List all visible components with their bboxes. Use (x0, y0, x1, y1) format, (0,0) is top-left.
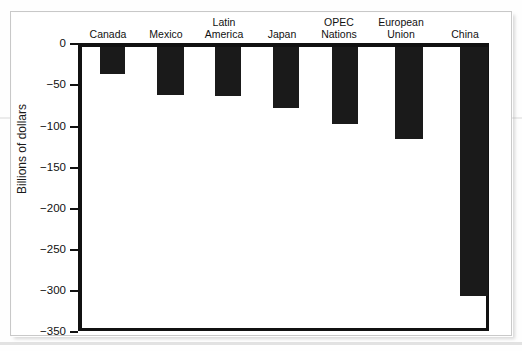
bar-latin-america[interactable] (215, 47, 241, 96)
plot-surface (82, 47, 486, 328)
category-label-latin-america: Latin America (194, 17, 254, 40)
category-label-japan: Japan (254, 29, 310, 41)
y-tick-mark-50 (70, 84, 78, 86)
category-label-mexico: Mexico (138, 29, 194, 41)
y-tick-label-0: 0 (22, 37, 66, 49)
category-label-european-union: European Union (368, 17, 434, 40)
y-tick-label-250: −250 (22, 243, 66, 255)
bar-japan[interactable] (273, 47, 299, 108)
y-tick-label-350: −350 (22, 325, 66, 337)
category-label-canada: Canada (80, 29, 136, 41)
y-tick-mark-150 (70, 167, 78, 169)
y-tick-mark-100 (70, 126, 78, 128)
y-tick-mark-250 (70, 249, 78, 251)
bar-european-union[interactable] (395, 47, 423, 139)
y-tick-mark-200 (70, 208, 78, 210)
category-label-china: China (437, 29, 493, 41)
y-tick-mark-0 (70, 43, 78, 45)
scan-artifact-band-lower (0, 342, 522, 345)
figure-container: 0 −50 −100 −150 −200 −250 −300 −350 Bill… (0, 0, 522, 351)
y-tick-mark-300 (70, 290, 78, 292)
y-axis-title: Billions of dollars (15, 74, 29, 224)
y-tick-mark-350 (70, 331, 78, 333)
plot-area (78, 43, 489, 331)
bar-opec-nations[interactable] (332, 47, 358, 124)
category-label-opec-nations: OPEC Nations (309, 17, 369, 40)
bar-canada[interactable] (100, 47, 125, 74)
bar-mexico[interactable] (157, 47, 184, 95)
bar-china[interactable] (460, 47, 488, 296)
y-tick-label-300: −300 (22, 284, 66, 296)
